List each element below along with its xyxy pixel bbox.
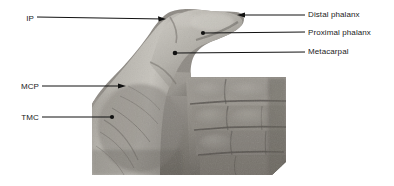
anatomy-figure: IP MCP TMC Distal phalanx Proximal phala… (0, 0, 394, 186)
label-mcp: MCP (6, 82, 39, 91)
label-tmc: TMC (6, 113, 39, 122)
label-ip: IP (14, 14, 34, 23)
label-distal-phalanx: Distal phalanx (308, 10, 360, 19)
label-metacarpal: Metacarpal (308, 47, 349, 56)
label-proximal-phalanx: Proximal phalanx (308, 28, 371, 37)
